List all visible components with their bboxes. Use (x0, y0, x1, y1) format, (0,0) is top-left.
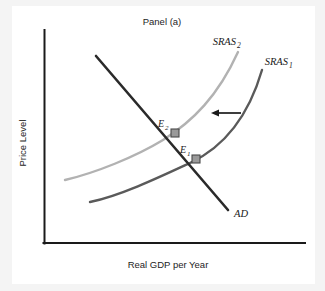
ad-curve (96, 56, 228, 210)
ad-sras-chart: Panel (a) Real GDP per Year Price Level … (0, 0, 325, 291)
sras2-curve (65, 52, 238, 180)
figure-root: Panel (a) Real GDP per Year Price Level … (0, 0, 325, 291)
e1-label-subscript: 1 (187, 150, 191, 158)
e2-label-subscript: 2 (165, 124, 169, 132)
equilibrium-marker-e2 (171, 129, 179, 137)
y-axis-label: Price Level (17, 120, 28, 167)
e2-label: E (157, 118, 164, 129)
e1-label: E (179, 144, 186, 155)
shift-arrow-icon (211, 110, 241, 117)
sras1-label-group: SRAS 1 (265, 56, 293, 70)
ad-label: AD (233, 208, 248, 219)
sras2-label: SRAS (213, 36, 237, 47)
sras2-label-group: SRAS 2 (213, 36, 241, 50)
sras2-label-subscript: 2 (237, 41, 241, 50)
sras1-label-subscript: 1 (289, 61, 293, 70)
sras1-label: SRAS (265, 56, 289, 67)
panel-title: Panel (a) (143, 16, 182, 27)
x-axis-label: Real GDP per Year (128, 259, 209, 270)
equilibrium-marker-e1 (192, 155, 200, 163)
